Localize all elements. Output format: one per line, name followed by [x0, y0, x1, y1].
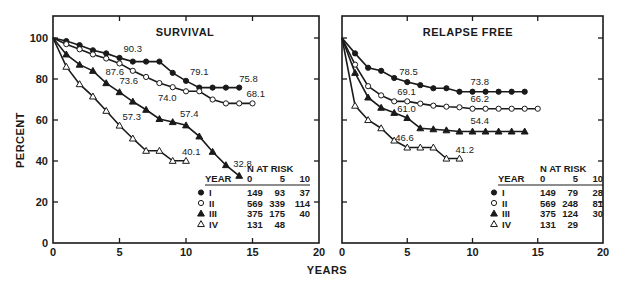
row-value: 30 — [592, 208, 603, 219]
filled-triangle-marker — [198, 210, 205, 216]
row-value: 375 — [247, 208, 264, 219]
filled-circle-marker — [210, 85, 215, 90]
open-circle-marker — [418, 101, 423, 106]
table-header-col: 5 — [573, 173, 579, 184]
row-stage: IV — [502, 219, 512, 230]
open-circle-marker — [64, 42, 69, 47]
data-label: 40.1 — [182, 146, 201, 157]
data-label: 75.8 — [239, 73, 258, 84]
data-label: 79.1 — [190, 66, 209, 77]
filled-circle-marker — [496, 89, 501, 94]
open-circle-marker — [130, 68, 135, 73]
row-value: 37 — [299, 187, 310, 198]
filled-circle-marker — [509, 89, 514, 94]
x-tick-label: 5 — [404, 246, 410, 258]
data-label: 74.0 — [158, 92, 177, 103]
x-tick-label: 10 — [466, 246, 478, 258]
filled-circle-marker — [379, 68, 384, 73]
data-label: 41.2 — [455, 144, 474, 155]
table-row: I1497928 — [491, 187, 603, 198]
open-circle-marker — [470, 106, 475, 111]
filled-circle-marker — [237, 85, 242, 90]
table-header-year: YEAR — [498, 173, 525, 184]
series-line — [53, 38, 253, 103]
table-row: I1499337 — [198, 187, 310, 198]
filled-circle-marker — [392, 75, 397, 80]
table-title: N AT RISK — [540, 163, 587, 174]
data-label: 73.8 — [471, 76, 490, 87]
y-tick-label: 80 — [36, 73, 48, 85]
table-header-year: YEAR — [205, 173, 232, 184]
data-label: 90.3 — [124, 43, 143, 54]
row-value: 131 — [247, 219, 264, 230]
y-tick-label: 60 — [36, 114, 48, 126]
data-label: 73.6 — [120, 75, 139, 86]
row-stage: IV — [209, 219, 219, 230]
at-risk-table: N AT RISKYEAR0510I1497928II56924881III37… — [491, 163, 604, 230]
filled-triangle-marker — [352, 69, 359, 75]
open-triangle-marker — [198, 221, 205, 227]
filled-circle-marker — [144, 59, 149, 64]
row-stage: I — [209, 187, 212, 198]
data-label: 57.3 — [123, 111, 142, 122]
table-header-col: 10 — [592, 173, 603, 184]
filled-triangle-marker — [143, 106, 150, 112]
open-circle-marker — [522, 106, 527, 111]
row-value: 175 — [269, 208, 286, 219]
open-circle-marker — [392, 99, 397, 104]
x-tick-label: 15 — [246, 246, 258, 258]
row-value: 569 — [247, 198, 263, 209]
open-triangle-marker — [63, 63, 70, 69]
row-value: 569 — [540, 198, 556, 209]
row-value: 149 — [247, 187, 263, 198]
open-circle-marker — [223, 101, 228, 106]
panel-title: RELAPSE FREE — [423, 26, 513, 38]
open-triangle-marker — [491, 221, 498, 227]
data-label: 61.0 — [397, 103, 416, 114]
open-circle-marker — [250, 101, 255, 106]
open-circle-marker — [197, 89, 202, 94]
series-stage-ii — [53, 38, 255, 106]
row-value: 114 — [295, 198, 311, 209]
series-line — [342, 38, 538, 109]
x-tick-label: 5 — [116, 246, 122, 258]
row-value: 339 — [269, 198, 285, 209]
row-value: 48 — [274, 219, 285, 230]
table-row: II56924881 — [491, 198, 603, 209]
row-value: 93 — [274, 187, 285, 198]
row-stage: III — [502, 208, 510, 219]
filled-circle-marker — [522, 89, 527, 94]
table-header-col: 0 — [247, 173, 252, 184]
y-tick-label: 100 — [30, 32, 48, 44]
filled-circle-marker — [104, 51, 109, 56]
x-axis-title: YEARS — [307, 264, 347, 276]
row-value: 29 — [567, 219, 578, 230]
open-circle-marker — [431, 103, 436, 108]
data-label: 46.6 — [395, 132, 414, 143]
relapse-free-panel: 05101520RELAPSE FREE78.573.869.166.261.0… — [339, 16, 609, 258]
x-tick-label: 10 — [180, 246, 192, 258]
open-circle-marker — [535, 106, 540, 111]
table-header-col: 10 — [299, 173, 310, 184]
filled-circle-marker — [183, 78, 188, 83]
data-label: 57.4 — [180, 108, 199, 119]
row-value: 131 — [540, 219, 557, 230]
data-label: 68.1 — [247, 88, 266, 99]
row-value: 28 — [592, 187, 603, 198]
open-circle-marker — [157, 81, 162, 86]
open-circle-marker — [483, 106, 488, 111]
row-value: 375 — [540, 208, 557, 219]
row-value: 124 — [562, 208, 579, 219]
filled-triangle-marker — [365, 94, 372, 100]
data-label: 54.4 — [471, 115, 490, 126]
open-circle-marker — [104, 56, 109, 61]
data-label: 78.5 — [399, 66, 418, 77]
table-title: N AT RISK — [247, 163, 294, 174]
x-tick-label: 0 — [339, 246, 345, 258]
table-header-col: 0 — [540, 173, 545, 184]
row-value: 149 — [540, 187, 556, 198]
open-circle-marker — [77, 47, 82, 52]
table-header-col: 5 — [280, 173, 286, 184]
filled-circle-marker — [157, 59, 162, 64]
open-triangle-marker — [378, 125, 385, 131]
